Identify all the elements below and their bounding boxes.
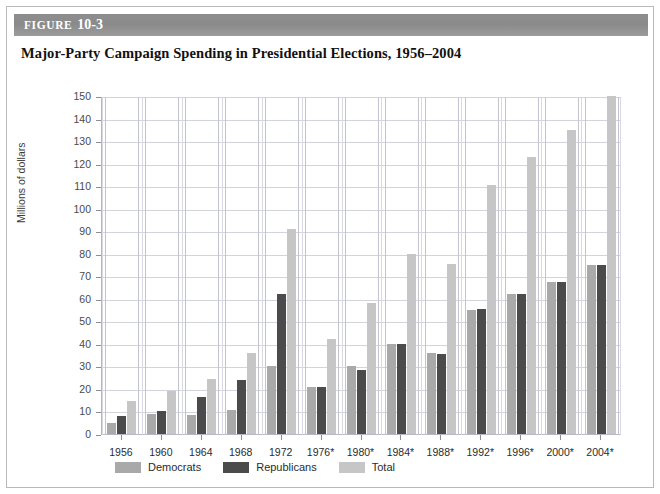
- x-gridline: [581, 97, 582, 435]
- y-tick-label: 70: [57, 270, 91, 282]
- y-tick-label: 20: [57, 383, 91, 395]
- x-gridline: [178, 97, 179, 435]
- y-gridline: [102, 210, 621, 211]
- x-gridline: [458, 97, 459, 435]
- y-tick-mark: [96, 412, 101, 413]
- y-tick-mark: [96, 97, 101, 98]
- y-tick-mark: [96, 345, 101, 346]
- y-gridline: [102, 165, 621, 166]
- bar-democrats-1968: [227, 410, 236, 434]
- legend-swatch-republicans: [223, 462, 249, 473]
- bar-total-1980: [367, 303, 376, 434]
- bar-republicans-1996: [517, 294, 526, 434]
- bar-democrats-1964: [187, 415, 196, 434]
- x-tick-mark: [400, 435, 401, 440]
- x-gridline: [425, 97, 426, 435]
- y-tick-mark: [96, 142, 101, 143]
- y-gridline: [102, 300, 621, 301]
- x-gridline: [102, 97, 103, 435]
- legend-item-democrats[interactable]: Democrats: [115, 461, 201, 473]
- x-gridline: [385, 97, 386, 435]
- legend-item-republicans[interactable]: Republicans: [223, 461, 317, 473]
- y-tick-label: 140: [57, 113, 91, 125]
- y-tick-label: 50: [57, 315, 91, 327]
- figure-frame: FIGURE10-3 Major-Party Campaign Spending…: [6, 6, 654, 488]
- y-tick-label: 30: [57, 360, 91, 372]
- x-gridline: [545, 97, 546, 435]
- y-gridline: [102, 97, 621, 98]
- x-tick-label: 2004*: [575, 446, 625, 458]
- x-tick-mark: [560, 435, 561, 440]
- x-gridline: [218, 97, 219, 435]
- bar-democrats-1980: [347, 366, 356, 434]
- x-tick-mark: [281, 435, 282, 440]
- x-gridline: [501, 97, 502, 435]
- y-tick-mark: [96, 367, 101, 368]
- bar-total-2000: [567, 130, 576, 434]
- bar-total-1996: [527, 157, 536, 434]
- x-gridline: [222, 97, 223, 435]
- x-tick-mark: [440, 435, 441, 440]
- bar-democrats-1988: [427, 353, 436, 434]
- y-tick-mark: [96, 277, 101, 278]
- bar-democrats-1996: [507, 294, 516, 434]
- bar-democrats-1992: [467, 310, 476, 434]
- figure-header-bar: FIGURE10-3: [14, 14, 648, 36]
- x-gridline: [620, 97, 621, 435]
- legend-swatch-democrats: [115, 462, 141, 473]
- y-gridline: [102, 255, 621, 256]
- y-gridline: [102, 120, 621, 121]
- bar-total-2004: [607, 96, 616, 434]
- bar-total-1984: [407, 254, 416, 434]
- bar-total-1956: [127, 401, 136, 434]
- x-gridline: [342, 97, 343, 435]
- x-gridline: [305, 97, 306, 435]
- bar-republicans-1960: [157, 411, 166, 434]
- bar-democrats-2004: [587, 265, 596, 434]
- x-gridline: [265, 97, 266, 435]
- y-axis-title: Millions of dollars: [15, 142, 27, 223]
- y-tick-mark: [96, 300, 101, 301]
- x-tick-mark: [121, 435, 122, 440]
- bar-republicans-2004: [597, 265, 606, 434]
- figure-header-label: FIGURE10-3: [24, 17, 103, 33]
- y-tick-mark: [96, 165, 101, 166]
- x-gridline: [538, 97, 539, 435]
- bar-republicans-1988: [437, 354, 446, 434]
- legend-label-republicans: Republicans: [256, 461, 317, 473]
- x-gridline: [378, 97, 379, 435]
- figure-header-word: FIGURE: [24, 19, 72, 31]
- x-gridline: [142, 97, 143, 435]
- y-tick-mark: [96, 322, 101, 323]
- legend-item-total[interactable]: Total: [339, 461, 395, 473]
- x-tick-mark: [361, 435, 362, 440]
- x-gridline: [418, 97, 419, 435]
- y-tick-mark: [96, 255, 101, 256]
- bar-chart: Millions of dollars 01020304050607080901…: [21, 73, 649, 488]
- y-tick-mark: [96, 120, 101, 121]
- bar-republicans-1984: [397, 344, 406, 434]
- y-tick-label: 130: [57, 135, 91, 147]
- bar-democrats-1976: [307, 387, 316, 434]
- x-gridline: [421, 97, 422, 435]
- y-tick-label: 80: [57, 248, 91, 260]
- bar-republicans-2000: [557, 282, 566, 434]
- x-gridline: [498, 97, 499, 435]
- y-tick-mark: [96, 232, 101, 233]
- x-gridline: [381, 97, 382, 435]
- x-gridline: [182, 97, 183, 435]
- bar-total-1960: [167, 391, 176, 434]
- x-gridline: [138, 97, 139, 435]
- bar-total-1992: [487, 185, 496, 434]
- bar-republicans-1972: [277, 294, 286, 434]
- y-tick-mark: [96, 390, 101, 391]
- x-tick-mark: [480, 435, 481, 440]
- x-tick-mark: [520, 435, 521, 440]
- bar-republicans-1976: [317, 387, 326, 434]
- y-tick-label: 60: [57, 293, 91, 305]
- x-gridline: [225, 97, 226, 435]
- x-gridline: [298, 97, 299, 435]
- x-tick-mark: [241, 435, 242, 440]
- bar-democrats-2000: [547, 282, 556, 434]
- bar-democrats-1984: [387, 344, 396, 434]
